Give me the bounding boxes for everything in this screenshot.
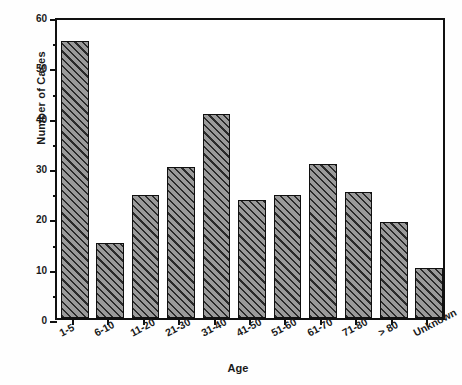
bar-41-50 <box>238 200 266 318</box>
y-tick-mark <box>50 220 57 222</box>
y-tick-label: 40 <box>36 114 47 125</box>
bar-series <box>57 20 443 318</box>
y-tick-label: 50 <box>36 63 47 74</box>
x-tick-label--80: > 80 <box>376 318 400 338</box>
bar-1-5 <box>61 41 89 318</box>
y-tick-mark <box>50 170 57 172</box>
y-tick-mark <box>50 321 57 323</box>
bar-21-30 <box>167 167 195 318</box>
plot-area: 0102030405060 <box>55 18 445 320</box>
y-tick-mark <box>50 69 57 71</box>
bar-61-70 <box>309 164 337 318</box>
bar--80 <box>380 222 408 318</box>
y-tick-label: 20 <box>36 214 47 225</box>
bar-71-80 <box>345 192 373 318</box>
y-tick-label: 60 <box>36 13 47 24</box>
y-tick-mark <box>50 271 57 273</box>
chart-page: Number of Cases 0102030405060 1-56-1011-… <box>0 0 462 385</box>
y-tick-mark <box>50 120 57 122</box>
bar-31-40 <box>203 114 231 318</box>
bar-51-60 <box>274 195 302 318</box>
x-axis-title-text: Age <box>228 362 249 374</box>
y-axis-title: Number of Cases <box>35 13 47 183</box>
bar-11-20 <box>132 195 160 318</box>
y-tick-label: 10 <box>36 265 47 276</box>
x-axis-title: Age <box>0 362 462 374</box>
y-tick-label: 0 <box>41 315 47 326</box>
x-tick-label-6-10: 6-10 <box>92 318 116 338</box>
y-tick-label: 30 <box>36 164 47 175</box>
bar-unknown <box>415 268 443 318</box>
bar-6-10 <box>96 243 124 319</box>
y-tick-mark <box>50 19 57 21</box>
